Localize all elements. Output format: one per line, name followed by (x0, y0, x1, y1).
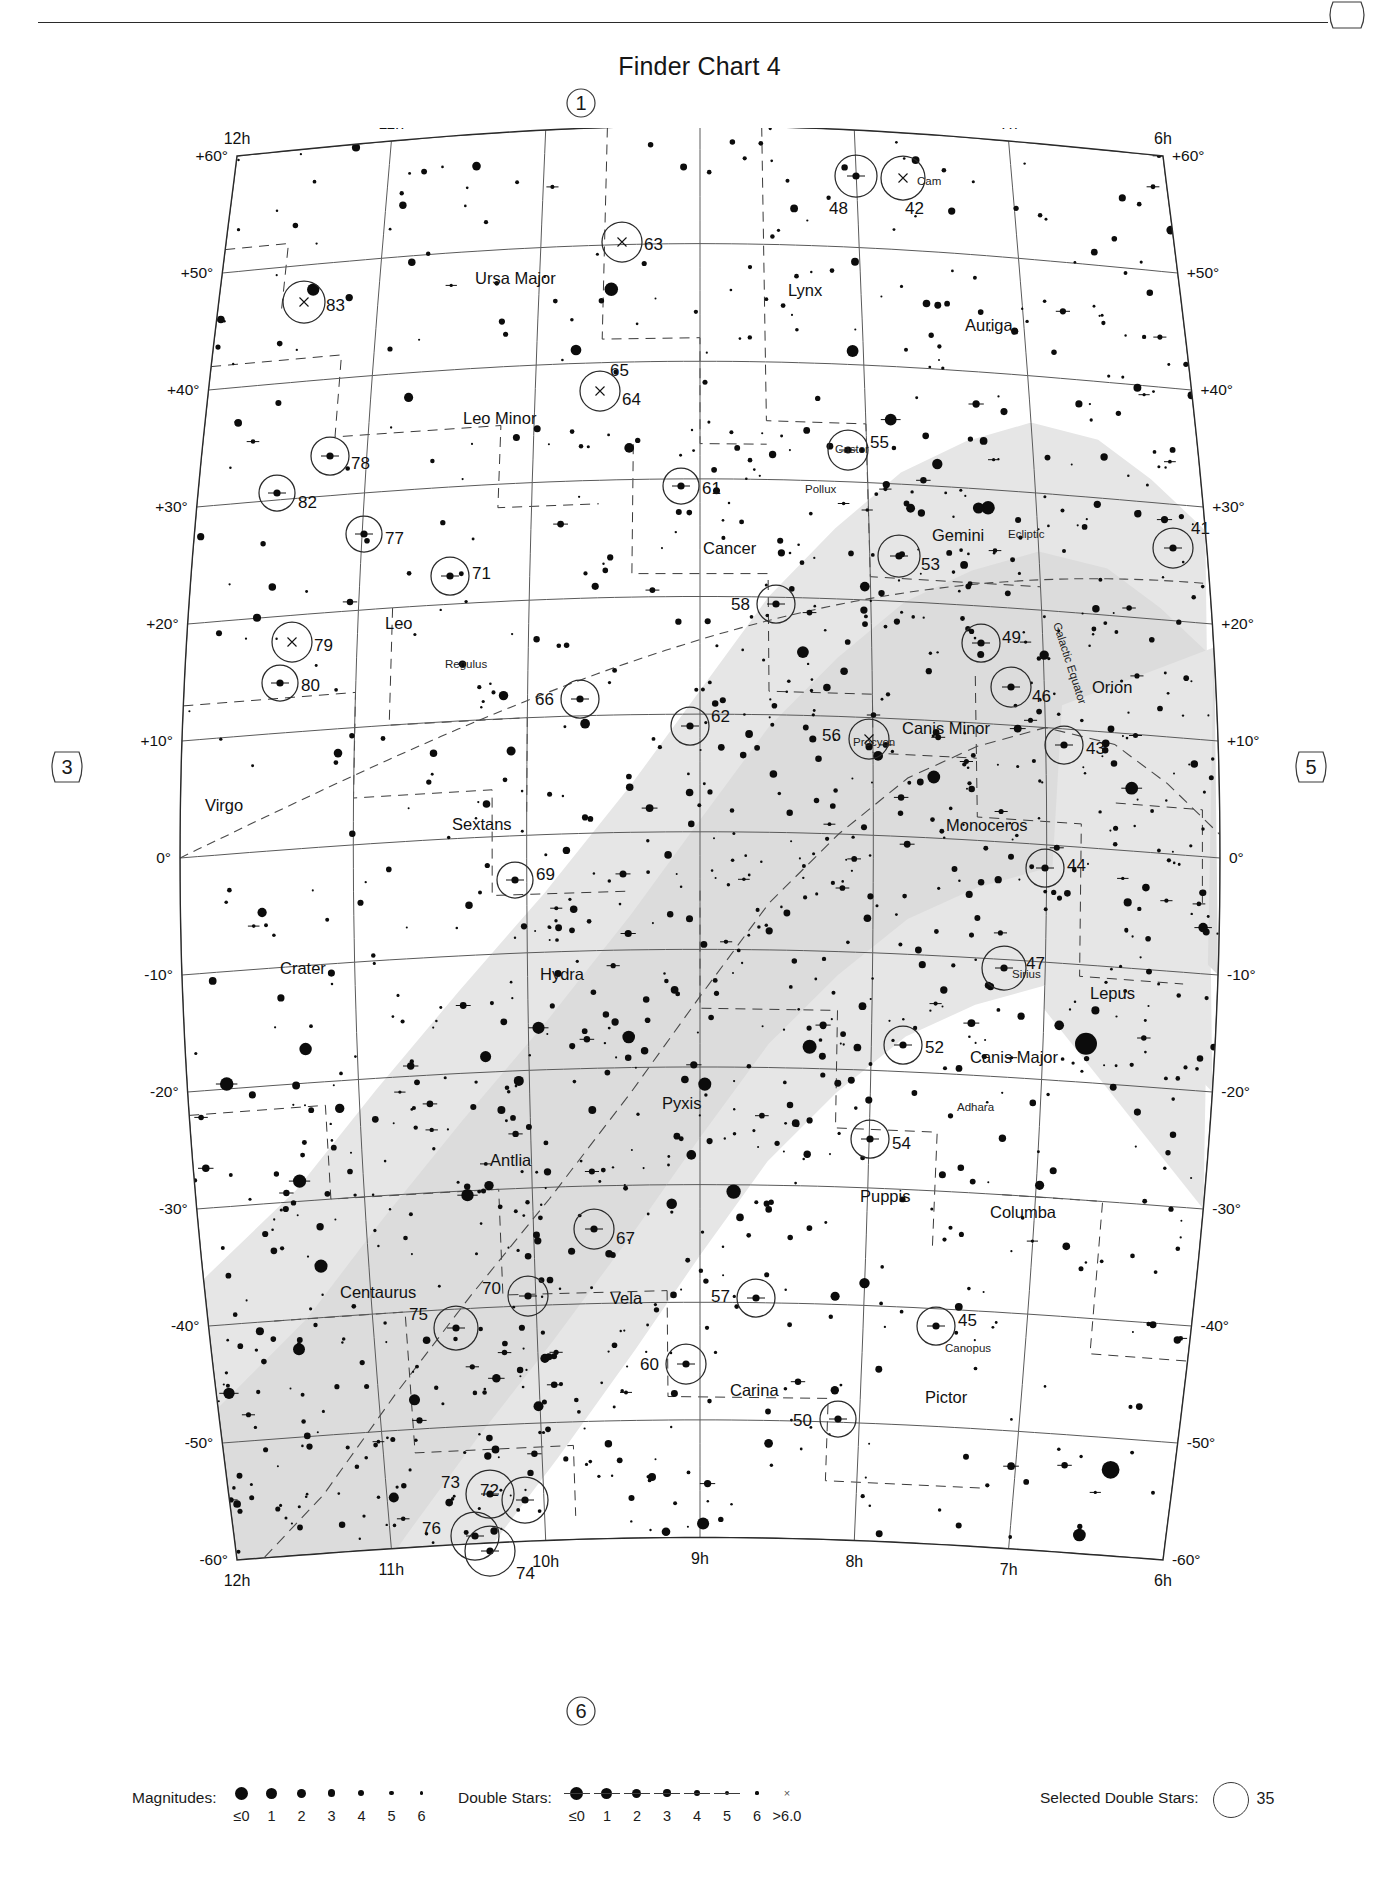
star-dot (1183, 675, 1189, 681)
star-dot (1127, 790, 1131, 794)
star-dot (645, 1017, 651, 1023)
star-dot (860, 582, 870, 592)
star-dot (1082, 524, 1088, 530)
star-dot (608, 879, 612, 883)
star-dot (1044, 1385, 1047, 1388)
star-dot (792, 958, 798, 964)
chart-tag-west[interactable]: 3 (48, 750, 86, 784)
star-dot (1111, 760, 1118, 767)
chart-tag-east[interactable]: 5 (1292, 750, 1330, 784)
star-dot (898, 579, 900, 581)
selected-double-star-id: 52 (925, 1038, 944, 1057)
star-dot (484, 1452, 491, 1459)
star-dot (499, 1489, 502, 1492)
star-dot (248, 1198, 251, 1201)
star-dot (237, 1550, 241, 1554)
star-dot (769, 451, 776, 458)
star-dot (729, 430, 733, 434)
star-dot (339, 1521, 346, 1528)
star-dot (521, 1496, 528, 1503)
selected-double-star[interactable]: 54 (851, 1120, 911, 1158)
star-dot (440, 609, 442, 611)
star-dot (562, 795, 564, 797)
star-dot-icon (389, 1791, 394, 1796)
star-dot (1141, 1035, 1146, 1040)
star-dot (360, 1360, 365, 1365)
star-dot (780, 906, 783, 909)
star-dot (600, 1381, 603, 1384)
star-dot (734, 445, 740, 451)
star-dot (472, 162, 481, 171)
selected-double-star[interactable]: 65 (610, 361, 629, 380)
star-dot (778, 539, 780, 541)
selected-double-star[interactable]: 57 (711, 1279, 775, 1317)
star-dot (938, 1508, 941, 1511)
star-dot (810, 271, 812, 273)
selected-double-star[interactable]: 78 (311, 437, 370, 475)
star-dot (624, 443, 634, 453)
star-dot (1162, 576, 1164, 578)
star-dot (730, 289, 733, 292)
chart-tag-north[interactable]: 1 (562, 86, 600, 120)
selected-double-star[interactable]: 82 (259, 475, 317, 512)
star-dot (499, 691, 508, 700)
star-dot (1211, 757, 1215, 761)
star-dot (549, 939, 551, 941)
star-dot (480, 1222, 483, 1225)
selected-double-star[interactable]: 42 (881, 156, 925, 218)
star-dot (1150, 809, 1154, 813)
selected-double-star[interactable]: 63 (602, 222, 663, 262)
star-dot (820, 1024, 825, 1029)
star-dot (293, 1174, 306, 1187)
selected-double-star-id: 46 (1032, 687, 1051, 706)
star-dot (607, 1350, 609, 1352)
star-dot (765, 614, 768, 617)
star-dot (1091, 1006, 1099, 1014)
star-dot (584, 1036, 591, 1043)
star-dot (820, 1072, 825, 1077)
star-dot (829, 1153, 831, 1155)
selected-double-star[interactable]: 66 (535, 680, 599, 718)
star-dot (992, 458, 995, 461)
star-dot (1124, 898, 1132, 906)
star-dot (349, 733, 354, 738)
star-dot (1061, 1057, 1065, 1061)
star-dot (938, 359, 940, 361)
star-dot (590, 1286, 593, 1289)
dec-tick-label-right: -60° (1172, 1551, 1201, 1568)
star-dot (1057, 713, 1061, 717)
star-dot (915, 396, 918, 399)
star-dot (687, 510, 693, 516)
star-dot (649, 587, 655, 593)
selected-double-star[interactable]: 79 (272, 622, 333, 662)
star-dot (251, 764, 254, 767)
chart-tag-south[interactable]: 6 (562, 1694, 600, 1728)
star-dot (646, 804, 654, 812)
star-dot (884, 1326, 886, 1328)
selected-double-star[interactable]: 77 (346, 516, 404, 552)
dec-tick-label-right: +20° (1221, 615, 1254, 632)
star-dot (502, 1341, 508, 1347)
selected-double-star[interactable]: 61 (663, 468, 721, 504)
star-dot (1060, 308, 1066, 314)
star-dot (532, 1022, 544, 1034)
star-dot (847, 345, 859, 357)
selected-double-star[interactable]: 50 (793, 1401, 856, 1437)
chart-legend: Magnitudes: ≤0123456 Double Stars: ≤0123… (0, 1778, 1399, 1874)
selected-double-star[interactable]: 60 (640, 1344, 706, 1384)
star-dot (221, 1246, 225, 1250)
star-dot (611, 1018, 618, 1025)
selected-double-star[interactable]: 48 (829, 155, 877, 218)
star-dot (407, 571, 412, 576)
star-dot (718, 744, 725, 751)
star-dot (372, 1116, 379, 1123)
star-dot (707, 1399, 712, 1404)
selected-double-star[interactable]: 45 (917, 1307, 977, 1345)
star-dot (959, 1232, 964, 1237)
star-dot (902, 1018, 904, 1020)
star-dot (892, 446, 897, 451)
legend-swatch-caption: 6 (753, 1808, 761, 1824)
star-dot (707, 789, 712, 794)
star-dot (730, 139, 736, 145)
star-chart-map[interactable]: 4142434445464748495052535455565758606162… (110, 128, 1290, 1688)
